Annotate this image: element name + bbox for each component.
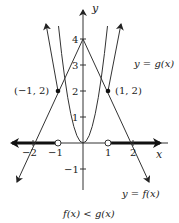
graph: 4 3 2 1 −1 −2 −1 1 2 y x (−1, 2) (1, 2) … bbox=[0, 0, 179, 223]
y-tick-label-m1: −1 bbox=[64, 164, 79, 175]
f-function-label: y = f(x) bbox=[121, 188, 160, 199]
x-tick-label-m1: −1 bbox=[48, 147, 63, 158]
y-tick-label-3: 3 bbox=[72, 60, 78, 71]
y-tick-label-4: 4 bbox=[72, 34, 78, 45]
x-tick-label-m2: −2 bbox=[22, 147, 37, 158]
open-endpoint-right bbox=[105, 140, 111, 146]
x-tick-label-1: 1 bbox=[105, 147, 111, 158]
x-axis-label: x bbox=[156, 148, 163, 161]
g-function-label: y = g(x) bbox=[133, 58, 174, 69]
y-tick-label-2: 2 bbox=[72, 86, 78, 97]
g-arrow-left bbox=[46, 24, 58, 91]
g-arrow-right bbox=[108, 24, 121, 91]
open-endpoint-left bbox=[55, 140, 61, 146]
intersection-point-right bbox=[106, 89, 111, 94]
point-label-left: (−1, 2) bbox=[14, 85, 49, 96]
y-tick-label-1: 1 bbox=[72, 112, 78, 123]
intersection-point-left bbox=[56, 89, 61, 94]
x-tick-label-2: 2 bbox=[130, 147, 136, 158]
inequality-caption: f(x) < g(x) bbox=[62, 208, 115, 219]
y-axis-label: y bbox=[91, 2, 99, 15]
point-label-right: (1, 2) bbox=[115, 85, 142, 96]
